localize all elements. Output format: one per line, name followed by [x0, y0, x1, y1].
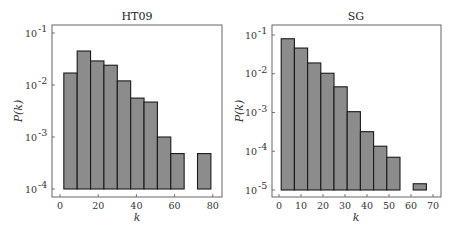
y-axis: 10-110-210-310-410-5: [245, 25, 275, 196]
histogram-bar: [198, 154, 211, 189]
y-tick-label: 10: [25, 184, 37, 195]
chart-title: HT09: [122, 10, 153, 23]
histogram-bar: [321, 73, 334, 190]
y-tick-exponent: -1: [258, 25, 267, 36]
histogram-bar: [294, 48, 307, 190]
histogram-bar: [281, 39, 294, 190]
x-tick-label: 50: [383, 200, 395, 211]
y-tick-exponent: -5: [258, 180, 267, 191]
histogram-bar: [334, 87, 347, 190]
histogram-bar: [360, 132, 373, 190]
y-tick-exponent: -4: [258, 141, 267, 152]
histogram-bar: [64, 73, 77, 189]
y-tick-exponent: -4: [38, 179, 47, 190]
x-axis-label: k: [353, 211, 360, 224]
histogram-bar: [171, 154, 184, 189]
panel-ht09: HT09 10-110-210-310-4 020406080 k P(k): [12, 10, 222, 224]
y-tick-label: 10: [245, 107, 257, 118]
x-tick-label: 30: [339, 200, 351, 211]
y-tick-label: 10: [245, 146, 257, 157]
histogram-bar: [144, 102, 157, 189]
chart-title: SG: [348, 10, 364, 23]
y-tick-exponent: -2: [38, 75, 47, 86]
y-tick-exponent: -3: [258, 103, 267, 114]
histogram-bar: [308, 63, 321, 190]
histogram-bar: [77, 51, 90, 189]
x-tick-label: 0: [276, 200, 282, 211]
y-tick-label: 10: [25, 80, 37, 91]
x-tick-label: 10: [295, 200, 307, 211]
y-tick-label: 10: [25, 28, 37, 39]
y-tick-exponent: -1: [38, 23, 47, 34]
histogram-bar: [117, 81, 130, 189]
x-tick-label: 20: [92, 200, 104, 211]
y-tick-exponent: -2: [258, 64, 267, 75]
histogram-bar: [104, 65, 117, 189]
bars: [281, 39, 426, 190]
x-axis-label: k: [134, 211, 141, 224]
x-tick-label: 60: [169, 200, 181, 211]
histogram-bar: [347, 112, 360, 190]
x-tick-label: 40: [361, 200, 373, 211]
y-axis-label: P(k): [12, 100, 25, 124]
y-axis-label: P(k): [233, 100, 246, 124]
y-tick-label: 10: [245, 185, 257, 196]
histogram-bar: [374, 146, 387, 190]
x-tick-label: 80: [207, 200, 219, 211]
bars: [64, 51, 211, 189]
y-tick-exponent: -3: [38, 127, 47, 138]
y-tick-label: 10: [25, 132, 37, 143]
x-tick-label: 0: [57, 200, 63, 211]
histogram-bar: [387, 157, 400, 190]
y-tick-label: 10: [245, 30, 257, 41]
figure: HT09 10-110-210-310-4 020406080 k P(k) S…: [0, 0, 458, 237]
panel-sg: SG 10-110-210-310-410-5 010203040506070 …: [233, 10, 441, 224]
y-tick-label: 10: [245, 68, 257, 79]
histogram-bar: [91, 61, 104, 189]
x-tick-label: 70: [427, 200, 439, 211]
histogram-bar: [157, 137, 170, 189]
histogram-bar: [131, 98, 144, 189]
histogram-bar: [413, 184, 426, 190]
x-tick-label: 60: [405, 200, 417, 211]
x-tick-label: 40: [130, 200, 142, 211]
y-axis: 10-110-210-310-4: [25, 23, 55, 195]
x-tick-label: 20: [317, 200, 329, 211]
